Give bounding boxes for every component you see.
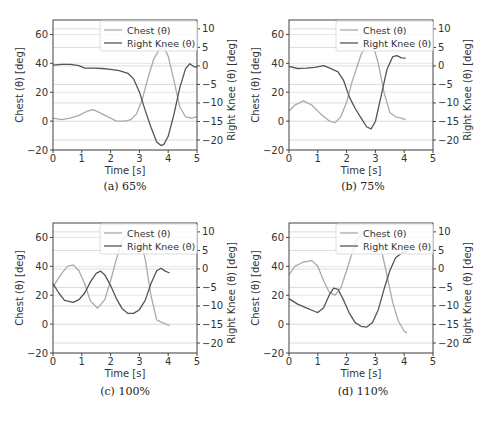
y-right-tick-label: −15 bbox=[438, 319, 459, 330]
y-right-tick-label: 10 bbox=[438, 23, 451, 34]
y-tick-label: 60 bbox=[35, 232, 48, 243]
x-axis-label: Time [s] bbox=[340, 165, 382, 176]
y-right-tick-label: 0 bbox=[202, 263, 208, 274]
y-tick-label: 20 bbox=[35, 87, 48, 98]
x-tick-label: 1 bbox=[79, 356, 85, 367]
x-tick-label: 1 bbox=[79, 153, 85, 164]
x-tick-label: 0 bbox=[286, 153, 292, 164]
caption-b: (b) 75% bbox=[263, 180, 463, 193]
legend-label: Chest (θ) bbox=[363, 228, 406, 239]
x-tick-label: 2 bbox=[343, 153, 349, 164]
legend-label: Chest (θ) bbox=[363, 25, 406, 36]
legend-label: Right Knee (θ) bbox=[127, 38, 195, 49]
subplot-b: 012345−200204060−20−15−10−50510Time [s]C… bbox=[236, 0, 485, 176]
y-right-tick-label: −10 bbox=[202, 300, 223, 311]
y-tick-label: 0 bbox=[278, 116, 284, 127]
series-line bbox=[53, 64, 197, 146]
y-right-tick-label: −15 bbox=[438, 116, 459, 127]
x-tick-label: 5 bbox=[194, 356, 200, 367]
y-right-tick-label: −10 bbox=[202, 97, 223, 108]
x-tick-label: 5 bbox=[194, 153, 200, 164]
x-tick-label: 3 bbox=[372, 153, 378, 164]
y-right-tick-label: 5 bbox=[438, 42, 444, 53]
y-tick-label: 0 bbox=[42, 319, 48, 330]
y-right-tick-label: 5 bbox=[438, 245, 444, 256]
x-tick-label: 0 bbox=[50, 153, 56, 164]
chart-b: 012345−200204060−20−15−10−50510Time [s]C… bbox=[236, 0, 485, 176]
x-axis-label: Time [s] bbox=[340, 368, 382, 379]
y-right-tick-label: −5 bbox=[202, 282, 217, 293]
y-axis-label: Chest (θ) [deg] bbox=[14, 47, 25, 123]
y-right-tick-label: −20 bbox=[202, 338, 223, 349]
y-tick-label: 40 bbox=[35, 58, 48, 69]
y-axis-label: Chest (θ) [deg] bbox=[250, 47, 261, 123]
legend-label: Chest (θ) bbox=[127, 228, 170, 239]
x-tick-label: 5 bbox=[430, 356, 436, 367]
y-tick-label: 60 bbox=[271, 29, 284, 40]
y-tick-label: 60 bbox=[35, 29, 48, 40]
y-right-tick-label: −5 bbox=[202, 79, 217, 90]
y-tick-label: 0 bbox=[42, 116, 48, 127]
x-tick-label: 3 bbox=[372, 356, 378, 367]
y-tick-label: −20 bbox=[263, 348, 284, 359]
y-right-tick-label: −15 bbox=[202, 319, 223, 330]
y-tick-label: 20 bbox=[271, 290, 284, 301]
x-tick-label: 2 bbox=[107, 153, 113, 164]
y-right-tick-label: −10 bbox=[438, 97, 459, 108]
series-line bbox=[289, 42, 406, 123]
y-tick-label: 20 bbox=[35, 290, 48, 301]
y-right-tick-label: −15 bbox=[202, 116, 223, 127]
y-tick-label: 40 bbox=[271, 58, 284, 69]
y-right-tick-label: 10 bbox=[438, 226, 451, 237]
x-tick-label: 0 bbox=[50, 356, 56, 367]
caption-d: (d) 110% bbox=[263, 385, 463, 398]
y-tick-label: 0 bbox=[278, 319, 284, 330]
y-right-tick-label: −20 bbox=[438, 338, 459, 349]
legend-label: Right Knee (θ) bbox=[363, 241, 431, 252]
chart-d: 012345−200204060−20−15−10−50510Time [s]C… bbox=[236, 203, 485, 379]
x-tick-label: 4 bbox=[165, 153, 171, 164]
y-right-tick-label: 0 bbox=[438, 60, 444, 71]
series-line bbox=[53, 268, 170, 313]
y-tick-label: −20 bbox=[27, 145, 48, 156]
subplot-a: 012345−200204060−20−15−10−50510Time [s]C… bbox=[0, 0, 242, 176]
y-axis-label: Chest (θ) [deg] bbox=[14, 250, 25, 326]
caption-a: (a) 65% bbox=[25, 180, 225, 193]
x-axis-label: Time [s] bbox=[104, 165, 146, 176]
x-tick-label: 4 bbox=[165, 356, 171, 367]
y-right-tick-label: −10 bbox=[438, 300, 459, 311]
subplot-d: 012345−200204060−20−15−10−50510Time [s]C… bbox=[236, 203, 485, 379]
y-right-tick-label: −5 bbox=[438, 282, 453, 293]
y-tick-label: 20 bbox=[271, 87, 284, 98]
x-axis-label: Time [s] bbox=[104, 368, 146, 379]
y-right-tick-label: −20 bbox=[438, 135, 459, 146]
x-tick-label: 1 bbox=[315, 356, 321, 367]
y-axis-label: Chest (θ) [deg] bbox=[250, 250, 261, 326]
y-tick-label: −20 bbox=[263, 145, 284, 156]
legend-label: Chest (θ) bbox=[127, 25, 170, 36]
x-tick-label: 4 bbox=[401, 356, 407, 367]
subplot-c: 012345−200204060−20−15−10−50510Time [s]C… bbox=[0, 203, 242, 379]
y-right-tick-label: −20 bbox=[202, 135, 223, 146]
x-tick-label: 5 bbox=[430, 153, 436, 164]
y-tick-label: 60 bbox=[271, 232, 284, 243]
y-right-tick-label: 0 bbox=[438, 263, 444, 274]
y-right-axis-label: Right Knee (θ) [deg] bbox=[462, 242, 473, 344]
legend-label: Right Knee (θ) bbox=[127, 241, 195, 252]
y-right-tick-label: 5 bbox=[202, 42, 208, 53]
y-right-tick-label: −5 bbox=[438, 79, 453, 90]
caption-c: (c) 100% bbox=[25, 385, 225, 398]
y-right-tick-label: 10 bbox=[202, 226, 215, 237]
x-tick-label: 2 bbox=[107, 356, 113, 367]
x-tick-label: 2 bbox=[343, 356, 349, 367]
legend-label: Right Knee (θ) bbox=[363, 38, 431, 49]
x-tick-label: 4 bbox=[401, 153, 407, 164]
chart-c: 012345−200204060−20−15−10−50510Time [s]C… bbox=[0, 203, 242, 379]
y-right-tick-label: 0 bbox=[202, 60, 208, 71]
y-right-tick-label: 5 bbox=[202, 245, 208, 256]
x-tick-label: 3 bbox=[136, 153, 142, 164]
chart-a: 012345−200204060−20−15−10−50510Time [s]C… bbox=[0, 0, 242, 176]
y-right-tick-label: 10 bbox=[202, 23, 215, 34]
y-tick-label: −20 bbox=[27, 348, 48, 359]
x-tick-label: 0 bbox=[286, 356, 292, 367]
